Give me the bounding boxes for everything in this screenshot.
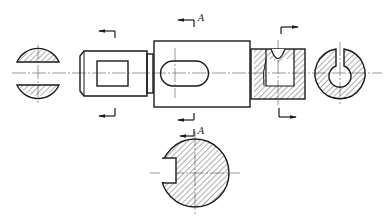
section-a-a-view <box>160 139 229 207</box>
main-view <box>80 41 250 107</box>
section-label-a-top: A <box>198 14 205 23</box>
section-label-a-bottom: A <box>198 127 205 136</box>
drawing-canvas: A A <box>0 0 392 222</box>
technical-drawing <box>0 0 392 222</box>
section-markers <box>99 20 298 136</box>
